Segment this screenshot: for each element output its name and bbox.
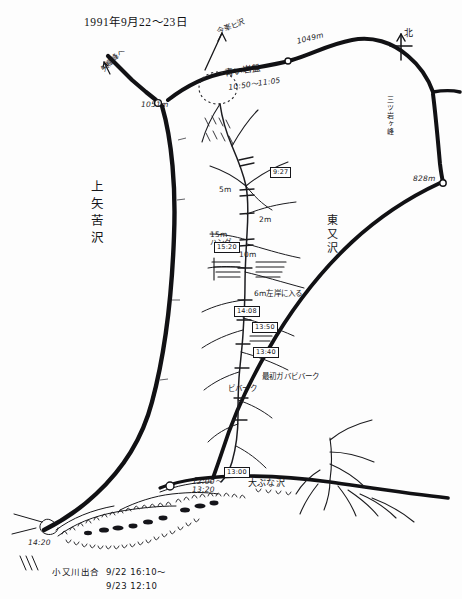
label-right-valley: 東又沢	[322, 214, 339, 256]
pitch-note-p-2m: 2m	[259, 216, 271, 224]
compass-north-label: 北	[404, 29, 413, 38]
time-box-t-1350: 13:50	[252, 316, 278, 333]
pitch-note-p-biv-jp: ビバーク	[228, 385, 257, 393]
label-mitsuiwa-peak: 三ツ岩ヶ峰	[384, 96, 395, 136]
time-tp-noon: 12:00～ 13:20	[192, 478, 222, 494]
time-tp-1420: 14:20	[28, 539, 51, 547]
time-box-value: 13:40	[253, 347, 279, 358]
time-box-value: 13:00	[224, 467, 250, 478]
pitch-note-p-6m-left: 6m左岸に入る	[254, 290, 302, 298]
time-box-value: 15:20	[214, 242, 240, 253]
signature-line-2: 9/23 12:10	[106, 582, 157, 591]
label-elev-1051: 1051m	[141, 101, 168, 109]
time-box-value: 13:50	[252, 322, 278, 333]
pitch-note-p-10m: 10m	[239, 251, 256, 259]
label-elev-828: 828m	[413, 175, 435, 183]
pitch-note-p-biv: 最初ガバビバーク	[262, 373, 320, 381]
sketch-map-sheet: 1991年9月22～23日 北 今峯ヒ沢 矢櫃峰へ ←青い岩盤 10:50～11…	[0, 0, 462, 599]
pitch-note-p-5m: 5m	[219, 186, 231, 194]
time-box-t-927: 9:27	[270, 161, 291, 178]
page-title: 1991年9月22～23日	[84, 16, 188, 28]
time-box-value: 9:27	[270, 167, 291, 178]
label-left-valley: 上矢苦沢	[86, 180, 105, 248]
time-box-t-1300: 13:00	[224, 461, 250, 478]
signature-line-1: 小又川出合 9/22 16:10～	[52, 568, 167, 577]
time-box-t-1340: 13:40	[253, 341, 279, 358]
time-box-t-1408: 14:08	[234, 300, 260, 317]
time-box-t-1520: 15:20	[214, 236, 240, 253]
label-bottom-valley: 大ぶな沢	[248, 479, 285, 488]
